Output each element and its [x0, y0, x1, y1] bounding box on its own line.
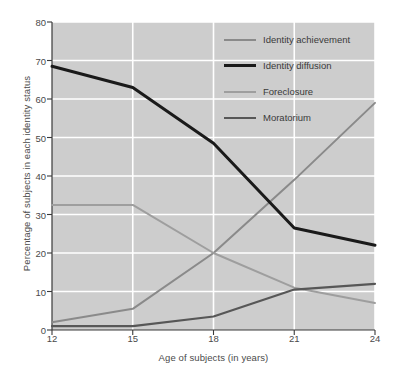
legend-swatch-moratorium: [224, 117, 256, 119]
plot-svg: [0, 0, 395, 376]
legend-label-identity-achievement: Identity achievement: [263, 34, 350, 45]
legend-swatch-identity-diffusion: [224, 64, 256, 67]
legend-label-moratorium: Moratorium: [263, 112, 311, 123]
legend-item-identity-diffusion[interactable]: Identity diffusion: [224, 60, 331, 71]
legend-swatch-identity-achievement: [224, 39, 256, 41]
legend-label-identity-diffusion: Identity diffusion: [263, 60, 331, 71]
legend-item-foreclosure[interactable]: Foreclosure: [224, 86, 313, 97]
line-chart-figure: Percentage of subjects in each identity …: [0, 0, 395, 376]
legend-label-foreclosure: Foreclosure: [263, 86, 313, 97]
legend-item-moratorium[interactable]: Moratorium: [224, 112, 311, 123]
legend-item-identity-achievement[interactable]: Identity achievement: [224, 34, 350, 45]
legend-swatch-foreclosure: [224, 91, 256, 93]
